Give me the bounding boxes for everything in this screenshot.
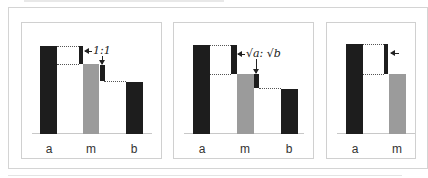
divider: [8, 175, 402, 176]
bar-a: [346, 44, 363, 134]
left-arrow-icon: [391, 53, 399, 54]
bar-a: [193, 45, 210, 134]
difference-bar-upper: [79, 46, 83, 64]
bar-m: [83, 64, 99, 134]
down-arrow-icon: [256, 59, 257, 73]
bar-b: [126, 82, 143, 134]
label-b: b: [279, 142, 299, 156]
difference-bar-upper: [231, 45, 237, 74]
dotted-guide-top: [57, 46, 79, 47]
dotted-guide-low: [104, 81, 126, 82]
left-arrow-icon: [85, 51, 92, 52]
difference-bar-lower: [100, 65, 105, 81]
bar-m: [237, 74, 254, 134]
down-arrow-icon: [102, 56, 103, 64]
panel-third: a m: [326, 22, 416, 159]
label-a: a: [39, 142, 59, 156]
dotted-guide-top: [363, 44, 384, 45]
label-m: m: [235, 142, 255, 156]
label-a: a: [345, 142, 365, 156]
difference-bar-lower: [254, 74, 259, 88]
ratio-label: √a: √b: [246, 47, 281, 60]
panel-geometric-mean: √a: √b a m b: [173, 22, 314, 159]
dotted-guide-mid: [363, 74, 384, 75]
dotted-guide-low: [259, 88, 281, 89]
label-a: a: [192, 142, 212, 156]
bar-b: [281, 89, 298, 134]
left-arrow-icon: [238, 54, 245, 55]
dotted-guide-mid: [210, 74, 231, 75]
label-m: m: [387, 142, 407, 156]
difference-bar-upper: [384, 44, 388, 74]
bar-a: [40, 46, 57, 134]
panel-arithmetic-mean: 1:1 a m b: [21, 22, 162, 159]
dotted-guide-top: [210, 45, 231, 46]
bar-m: [389, 74, 406, 134]
clipped-caption-fragment: [24, 0, 224, 2]
dotted-guide-mid: [57, 64, 79, 65]
label-m: m: [81, 142, 101, 156]
label-b: b: [124, 142, 144, 156]
